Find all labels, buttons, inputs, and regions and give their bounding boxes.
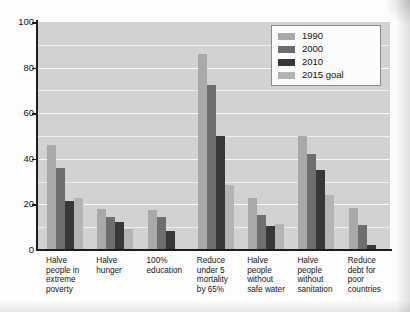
x-axis-category-label: Reduceunder 5mortalityby 65% — [189, 256, 239, 310]
legend-swatch — [278, 33, 295, 40]
bar — [325, 195, 334, 250]
scan-shadow-right — [396, 0, 410, 312]
chart-legend: 1990200020102015 goal — [271, 25, 381, 86]
label-line: people in — [46, 266, 85, 276]
bar — [207, 85, 216, 250]
legend-item: 2015 goal — [278, 69, 375, 81]
y-axis-tick-label: 60 — [6, 108, 34, 118]
bar — [307, 154, 316, 250]
bar — [65, 201, 74, 250]
bar — [248, 198, 257, 250]
legend-item: 2010 — [278, 56, 375, 68]
bar — [56, 168, 65, 250]
bar — [74, 198, 83, 250]
label-line: under 5 — [197, 266, 236, 276]
bar — [358, 225, 367, 250]
label-line: Reduce — [197, 256, 236, 266]
y-axis-tick-label: 40 — [6, 154, 34, 164]
y-axis-tick-label: 80 — [6, 63, 34, 73]
bar — [266, 226, 275, 250]
bar — [166, 231, 175, 250]
label-line: mortality — [197, 275, 236, 285]
y-axis-tick-mark — [32, 68, 37, 70]
bar — [257, 215, 266, 250]
bar — [115, 222, 124, 251]
legend-label: 2015 goal — [302, 70, 344, 80]
bar-group — [189, 22, 239, 250]
bar — [97, 209, 106, 250]
y-axis-tick-mark — [32, 159, 37, 161]
label-line: poor — [348, 275, 387, 285]
label-line: by 65% — [197, 285, 236, 295]
y-axis-tick-mark — [32, 204, 37, 206]
label-line: Halve — [247, 256, 286, 266]
y-axis-tick-mark — [32, 113, 37, 115]
label-line: education — [147, 266, 186, 276]
label-line: without — [247, 275, 286, 285]
bar-group — [88, 22, 138, 250]
label-line: 100% — [147, 256, 186, 266]
label-line: without — [297, 275, 336, 285]
label-line: safe water — [247, 285, 286, 295]
label-line: countries — [348, 285, 387, 295]
y-axis-tick-label: 0 — [6, 245, 34, 255]
label-line: debt for — [348, 266, 387, 276]
label-line: sanitation — [297, 285, 336, 295]
legend-swatch — [278, 46, 295, 53]
legend-swatch — [278, 72, 295, 79]
legend-item: 2000 — [278, 43, 375, 55]
label-line: Reduce — [348, 256, 387, 266]
y-axis-tick-label: 100 — [6, 17, 34, 27]
y-axis-tick-label: 20 — [6, 199, 34, 209]
x-axis-line — [36, 249, 392, 251]
bar-group — [139, 22, 189, 250]
legend-label: 2000 — [302, 44, 323, 54]
bar — [349, 208, 358, 250]
x-axis-category-label: Halvepeoplewithoutsanitation — [289, 256, 339, 310]
bar — [198, 54, 207, 250]
legend-item: 1990 — [278, 30, 375, 42]
label-line: poverty — [46, 285, 85, 295]
legend-label: 1990 — [302, 31, 323, 41]
label-line: people — [247, 266, 286, 276]
legend-label: 2010 — [302, 57, 323, 67]
bar — [148, 210, 157, 250]
x-axis-category-label: Reducedebt forpoorcountries — [340, 256, 390, 310]
label-line: Halve — [96, 256, 135, 266]
bar — [225, 185, 234, 250]
label-line: hunger — [96, 266, 135, 276]
chart-page: 020406080100 1990200020102015 goal Halve… — [0, 0, 410, 312]
label-line: people — [297, 266, 336, 276]
legend-swatch — [278, 59, 295, 66]
y-axis-labels: 020406080100 — [0, 0, 34, 272]
x-axis-category-label: Halvepeoplewithoutsafe water — [239, 256, 289, 310]
bar — [106, 217, 115, 250]
bar — [316, 170, 325, 250]
label-line: Halve — [297, 256, 336, 266]
x-axis-category-label: 100%education — [139, 256, 189, 310]
y-axis-tick-mark — [32, 22, 37, 24]
bar — [216, 136, 225, 250]
label-line: Halve — [46, 256, 85, 266]
bar-group — [38, 22, 88, 250]
bar — [275, 224, 284, 250]
bar — [298, 136, 307, 250]
bar — [157, 217, 166, 250]
y-axis-line — [36, 20, 38, 250]
bar — [47, 145, 56, 250]
label-line: extreme — [46, 275, 85, 285]
x-axis-category-label: Halvehunger — [88, 256, 138, 310]
x-axis-category-labels: Halvepeople inextremepovertyHalvehunger1… — [38, 256, 390, 310]
x-axis-category-label: Halvepeople inextremepoverty — [38, 256, 88, 310]
bar — [124, 229, 133, 250]
